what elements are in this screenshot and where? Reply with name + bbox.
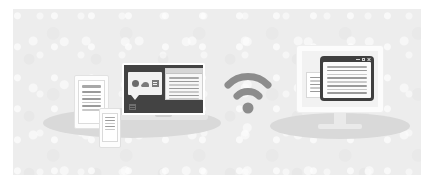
- text-line: [105, 129, 115, 130]
- text-line: [169, 77, 199, 79]
- smartphone-screen: [102, 113, 118, 142]
- laptop-device: [119, 63, 208, 127]
- text-line: [169, 95, 199, 97]
- laptop-document-window: [165, 68, 203, 100]
- close-button[interactable]: [367, 57, 371, 61]
- text-line: [169, 88, 199, 90]
- maximize-button[interactable]: [362, 58, 365, 61]
- laptop-document-body: [166, 74, 202, 105]
- cloud-app-icon: [142, 82, 149, 87]
- monitor-window-body: [323, 62, 371, 98]
- text-line: [105, 123, 115, 124]
- monitor-stand-base: [318, 124, 362, 129]
- text-line: [327, 70, 367, 72]
- monitor-screen: [302, 51, 378, 107]
- laptop-lid: [122, 63, 205, 115]
- illustration-canvas: [13, 9, 421, 175]
- text-line: [327, 81, 367, 83]
- monitor-document-window: [320, 56, 374, 101]
- circle-app-icon: [132, 80, 139, 87]
- wifi-dot: [243, 103, 254, 114]
- minimize-button[interactable]: [356, 59, 360, 60]
- wifi-signal-icon: [224, 71, 272, 115]
- device-scene: [13, 9, 421, 175]
- monitor-window-titlebar: [320, 56, 374, 62]
- text-line: [169, 84, 199, 86]
- laptop-trackpad-notch: [155, 115, 172, 117]
- app-bubble-tail: [131, 95, 139, 100]
- text-line: [82, 102, 101, 104]
- mini-document-icon: [129, 104, 136, 110]
- monitor-frame: [296, 45, 384, 113]
- wifi-arc-inner: [237, 92, 259, 96]
- text-line: [169, 98, 199, 100]
- text-line: [105, 120, 115, 121]
- wifi-arc-outer: [228, 77, 268, 85]
- smartphone-device: [99, 108, 121, 148]
- text-line: [82, 98, 101, 100]
- text-line: [105, 126, 115, 127]
- text-line: [169, 91, 199, 93]
- text-line: [105, 117, 115, 118]
- text-line: [82, 91, 101, 93]
- text-line: [169, 81, 199, 83]
- text-line: [327, 85, 367, 87]
- text-line: [82, 105, 101, 107]
- text-line: [82, 85, 101, 88]
- text-line: [327, 89, 367, 91]
- illustration-frame: [0, 0, 434, 188]
- text-line: [327, 77, 367, 79]
- text-line: [327, 92, 367, 94]
- text-line: [327, 74, 367, 76]
- text-line: [327, 66, 367, 68]
- text-line: [82, 95, 101, 97]
- app-bubble: [128, 72, 162, 95]
- desktop-monitor-device: [296, 45, 384, 133]
- document-app-icon: [152, 80, 159, 87]
- laptop-screen: [124, 65, 203, 113]
